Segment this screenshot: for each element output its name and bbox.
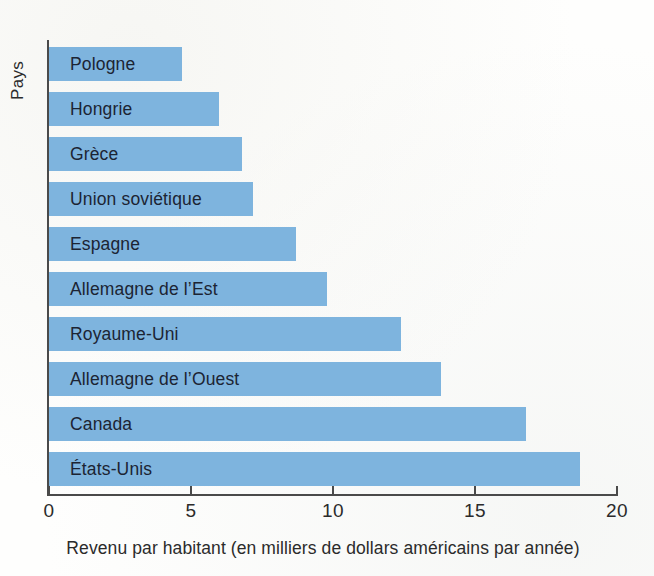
bar-category-label: Grèce bbox=[70, 137, 118, 171]
x-axis-tick bbox=[190, 486, 192, 495]
x-axis-title: Revenu par habitant (en milliers de doll… bbox=[0, 538, 646, 559]
bar-category-label: Canada bbox=[70, 407, 132, 441]
bar-category-label: Allemagne de l’Est bbox=[70, 272, 218, 306]
x-axis-tick bbox=[48, 486, 50, 495]
x-axis-tick bbox=[332, 486, 334, 495]
bar-category-label: Pologne bbox=[70, 47, 135, 81]
x-axis-tick-label: 15 bbox=[464, 500, 486, 522]
bar-category-label: États-Unis bbox=[70, 452, 152, 486]
x-axis-tick-label: 20 bbox=[606, 500, 628, 522]
x-axis-tick bbox=[616, 486, 618, 495]
x-axis-tick-label: 0 bbox=[44, 500, 55, 522]
x-axis-tick-label: 10 bbox=[322, 500, 344, 522]
y-axis-title: Pays bbox=[8, 61, 28, 100]
bar-category-label: Union soviétique bbox=[70, 182, 202, 216]
bar-chart: PologneHongrieGrèceUnion soviétiqueEspag… bbox=[0, 0, 654, 576]
bar-category-label: Hongrie bbox=[70, 92, 132, 126]
bar-category-label: Royaume-Uni bbox=[70, 317, 179, 351]
bar-category-label: Allemagne de l’Ouest bbox=[70, 362, 239, 396]
x-axis-tick-label: 5 bbox=[186, 500, 197, 522]
bar-category-label: Espagne bbox=[70, 227, 140, 261]
x-axis-tick bbox=[474, 486, 476, 495]
